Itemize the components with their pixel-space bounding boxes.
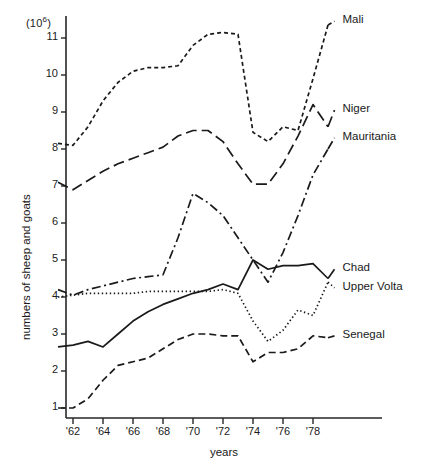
series-leader-chad xyxy=(328,269,335,278)
y-tick-label: 3 xyxy=(32,326,58,338)
y-tick-label: 1 xyxy=(32,400,58,412)
x-tick-label: '78 xyxy=(298,425,328,437)
y-tick-label: 9 xyxy=(32,104,58,116)
chart-container: (106) numbers of sheep and goats years 1… xyxy=(0,0,448,471)
y-tick-label: 6 xyxy=(32,215,58,227)
y-tick-label: 8 xyxy=(32,141,58,153)
y-tick-label: 11 xyxy=(32,30,58,42)
y-tick-label: 5 xyxy=(32,252,58,264)
x-tick-label: '64 xyxy=(88,425,118,437)
y-tick-label: 7 xyxy=(32,178,58,190)
series-leader-upper-volta xyxy=(328,282,335,288)
x-tick-label: '70 xyxy=(178,425,208,437)
series-leader-mali xyxy=(328,21,335,25)
y-tick-label: 2 xyxy=(32,363,58,375)
series-line-mauritania xyxy=(58,149,328,295)
series-label-chad: Chad xyxy=(343,261,371,273)
series-leader-niger xyxy=(328,110,335,127)
series-label-mauritania: Mauritania xyxy=(343,130,397,142)
series-line-mali xyxy=(58,25,328,145)
series-leader-senegal xyxy=(328,336,335,338)
x-tick-label: '68 xyxy=(148,425,178,437)
x-tick-label: '62 xyxy=(58,425,88,437)
x-tick-label: '74 xyxy=(238,425,268,437)
y-tick-label: 4 xyxy=(32,289,58,301)
series-line-niger xyxy=(58,105,328,190)
series-leader-mauritania xyxy=(328,138,335,149)
y-tick-label: 10 xyxy=(32,67,58,79)
series-label-niger: Niger xyxy=(343,102,370,114)
x-tick-label: '66 xyxy=(118,425,148,437)
series-line-upper-volta xyxy=(58,282,328,341)
x-tick-label: '72 xyxy=(208,425,238,437)
chart-plot-area xyxy=(0,0,448,471)
x-tick-label: '76 xyxy=(268,425,298,437)
series-label-upper-volta: Upper Volta xyxy=(343,280,403,292)
series-label-senegal: Senegal xyxy=(343,328,385,340)
series-label-mali: Mali xyxy=(343,13,364,25)
